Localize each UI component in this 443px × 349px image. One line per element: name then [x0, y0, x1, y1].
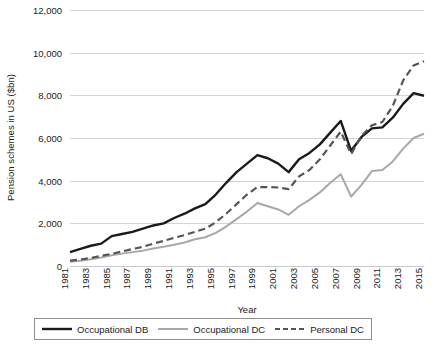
y-axis-tick-label: 10,000 — [33, 47, 62, 58]
series-lines — [70, 10, 424, 266]
y-axis-tick-labels: 02,0004,0006,0008,00010,00012,000 — [22, 10, 66, 266]
x-axis-tick-text: 1981 — [59, 268, 70, 289]
x-axis-tick-labels: 1981198319851987198919911993199519971999… — [70, 268, 424, 308]
legend-item[interactable]: Occupational DB — [42, 324, 148, 335]
legend-line-swatch — [42, 324, 72, 334]
x-axis-tick-text: 1991 — [163, 268, 174, 289]
y-axis-tick-label: 4,000 — [38, 175, 62, 186]
y-axis-title: Pension schemes in US ($bn) — [0, 0, 22, 275]
chart-legend: Occupational DBOccupational DCPersonal D… — [34, 318, 372, 340]
x-axis-tick-text: 1999 — [246, 268, 257, 289]
series-line — [70, 61, 424, 260]
x-axis-tick-text: 2007 — [330, 268, 341, 289]
x-axis-tick-text: 1987 — [121, 268, 132, 289]
legend-item[interactable]: Occupational DC — [158, 324, 265, 335]
x-axis-tick-text: 1995 — [205, 268, 216, 289]
y-axis-tick-label: 8,000 — [38, 90, 62, 101]
gridline — [70, 266, 424, 267]
x-axis-tick-text: 2011 — [371, 268, 382, 288]
legend-item-label: Occupational DB — [77, 324, 148, 335]
plot-area — [70, 10, 424, 266]
pension-schemes-line-chart: Pension schemes in US ($bn) 02,0004,0006… — [0, 0, 443, 349]
y-axis-tick-label: 2,000 — [38, 218, 62, 229]
x-axis-tick-text: 1989 — [142, 268, 153, 289]
legend-line-swatch — [158, 324, 188, 334]
x-axis-tick-text: 1993 — [184, 268, 195, 289]
legend-item[interactable]: Personal DC — [275, 324, 364, 335]
legend-item-label: Personal DC — [310, 324, 364, 335]
x-axis-tick-text: 2009 — [351, 268, 362, 289]
y-axis-tick-label: 12,000 — [33, 5, 62, 16]
legend-item-label: Occupational DC — [193, 324, 265, 335]
series-line — [70, 134, 424, 262]
x-axis-tick-text: 2001 — [267, 268, 278, 289]
x-axis-tick-text: 1985 — [101, 268, 112, 289]
y-axis-tick-label: 6,000 — [38, 133, 62, 144]
x-axis-tick-text: 1997 — [226, 268, 237, 289]
x-axis-tick-text: 1983 — [80, 268, 91, 289]
legend-line-swatch — [275, 324, 305, 334]
x-axis-tick-text: 2015 — [413, 268, 424, 289]
x-axis-tick-text: 2003 — [288, 268, 299, 289]
x-axis-title: Year — [70, 304, 424, 315]
y-axis-title-label: Pension schemes in US ($bn) — [6, 74, 17, 201]
x-axis-tick-text: 2005 — [309, 268, 320, 289]
x-axis-tick-text: 2013 — [392, 268, 403, 289]
